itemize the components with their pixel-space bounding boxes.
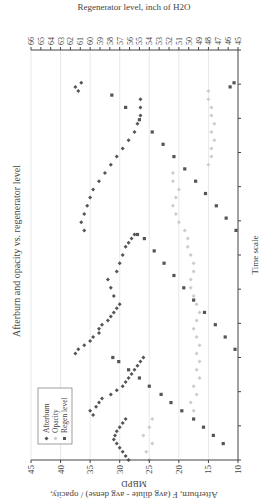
y2-tick-label: 54 (145, 37, 154, 45)
legend-label: Regen level (60, 397, 69, 433)
y2-tick-label: 58 (106, 37, 115, 45)
y-tick-label: 40 (56, 465, 66, 475)
y2-axis-label: Regenerator level, inch of H2O (77, 2, 191, 12)
y2-tick-label: 64 (47, 37, 56, 45)
y2-tick-label: 59 (96, 37, 105, 45)
y-tick-label: 15 (203, 465, 213, 475)
y2-tick-label: 48 (204, 37, 213, 45)
legend: AfterburnOpacityRegen level (38, 388, 72, 444)
y2-tick-label: 63 (57, 37, 66, 45)
y-tick-label: 30 (115, 465, 125, 475)
chart-canvas: 1015202530354045454647484950515253545556… (0, 0, 268, 502)
y2-tick-label: 66 (27, 37, 36, 45)
y-tick-label: 20 (174, 465, 184, 475)
series-regen-level (110, 81, 237, 445)
series-afterburn (73, 81, 145, 462)
y2-tick-label: 53 (155, 37, 164, 45)
y-axis-label-line2: MBPD (121, 479, 147, 489)
data-series (73, 81, 237, 462)
y2-tick-label: 47 (214, 37, 223, 45)
y-tick-label: 25 (144, 465, 154, 475)
y2-tick-label: 57 (116, 37, 125, 45)
y2-tick-label: 60 (86, 37, 95, 45)
y2-tick-label: 49 (195, 37, 204, 45)
y2-tick-label: 61 (76, 37, 85, 45)
legend-label: Opacity (51, 409, 60, 433)
y2-tick-label: 46 (224, 37, 233, 45)
y-tick-label: 45 (26, 465, 36, 475)
y-tick-label: 35 (85, 465, 95, 475)
y2-tick-label: 55 (135, 37, 144, 45)
x-axis-label: Time scale (250, 236, 260, 275)
legend-label: Afterburn (42, 403, 51, 433)
y2-tick-label: 65 (37, 37, 46, 45)
y2-tick-label: 62 (66, 37, 75, 45)
y2-tick-label: 50 (185, 37, 194, 45)
y2-tick-label: 45 (234, 37, 243, 45)
y2-tick-label: 52 (165, 37, 174, 45)
y-tick-label: 10 (233, 465, 243, 475)
chart-title: Afterburn and opacity vs. regenerator le… (11, 165, 22, 337)
y2-tick-label: 51 (175, 37, 184, 45)
legend-marker-square-icon (63, 437, 66, 440)
rotated-chart: 1015202530354045454647484950515253545556… (0, 0, 268, 502)
y-axis-label-line1: Afterburn, F (avg dilute - avg dense) / … (50, 490, 217, 500)
y2-tick-label: 56 (126, 37, 135, 45)
